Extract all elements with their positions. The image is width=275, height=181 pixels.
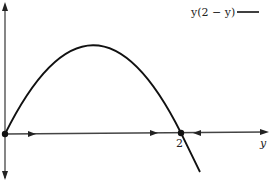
vertical-axis-up-arrow-icon xyxy=(2,2,8,11)
flow-arrow-right-icon xyxy=(150,130,158,136)
phase-line-figure: 2 y y(2 − y) xyxy=(0,0,275,181)
flow-arrow-right-icon xyxy=(28,131,36,137)
vertical-axis xyxy=(2,2,8,180)
legend: y(2 − y) xyxy=(190,6,259,19)
legend-label: y(2 − y) xyxy=(190,6,235,19)
equilibrium-point-2 xyxy=(178,130,184,136)
curve-y-times-2-minus-y xyxy=(5,45,200,172)
tick-label-2: 2 xyxy=(176,137,183,150)
flow-arrow-left-icon xyxy=(193,130,201,136)
vertical-axis-down-arrow-icon xyxy=(2,171,8,180)
horizontal-axis xyxy=(5,129,269,135)
horizontal-axis-end-arrow-icon xyxy=(260,129,269,135)
axis-label-y: y xyxy=(259,137,267,150)
equilibrium-point-0 xyxy=(2,131,8,137)
